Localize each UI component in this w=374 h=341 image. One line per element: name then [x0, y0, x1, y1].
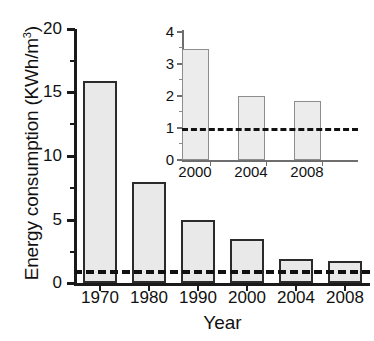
main-x-tick-label-2008: 2008	[316, 288, 374, 308]
inset-x-tick-label-2008: 2008	[279, 163, 335, 180]
bar-1980[interactable]	[132, 182, 166, 283]
main-y-tick-0	[67, 282, 75, 285]
main-y-tick-label-10: 10	[18, 146, 62, 166]
inset-y-tick-minor-3_5	[179, 47, 183, 48]
bar-1970[interactable]	[83, 81, 117, 283]
inset-x-tick-label-2000: 2000	[167, 163, 223, 180]
inset-y-tick-label-2: 2	[148, 87, 174, 104]
x-axis-title: Year	[75, 312, 370, 334]
main-y-tick-label-0: 0	[18, 273, 62, 293]
inset-y-tick-label-4: 4	[148, 23, 174, 40]
main-y-tick-5	[67, 219, 75, 222]
main-reference-line	[74, 270, 370, 274]
main-y-tick-10	[67, 155, 75, 158]
inset-y-tick-label-3: 3	[148, 55, 174, 72]
inset-y-tick-label-1: 1	[148, 119, 174, 136]
main-y-tick-label-5: 5	[18, 210, 62, 230]
main-y-tick-label-20: 20	[18, 19, 62, 39]
main-y-tick-label-15: 15	[18, 82, 62, 102]
main-y-tick-15	[67, 91, 75, 94]
inset-reference-line	[182, 128, 358, 131]
bar-2000[interactable]	[230, 239, 264, 283]
main-y-tick-minor-2_5	[70, 251, 75, 253]
main-y-tick-minor-7_5	[70, 187, 75, 189]
main-x-axis-line	[74, 283, 370, 286]
main-y-tick-minor-12_5	[70, 123, 75, 125]
main-y-tick-minor-17_5	[70, 60, 75, 62]
inset-x-axis-line	[182, 160, 358, 162]
inset-bar-2000[interactable]	[182, 49, 209, 160]
inset-y-tick-4	[177, 31, 183, 33]
figure: Energy consumption (KWh/m3) 20 15 10 5 0	[0, 0, 374, 341]
main-y-tick-20	[67, 28, 75, 31]
inset-x-tick-label-2004: 2004	[223, 163, 279, 180]
inset-bar-chart: 4 3 2 1 0 2000 2004 2008	[150, 8, 360, 173]
